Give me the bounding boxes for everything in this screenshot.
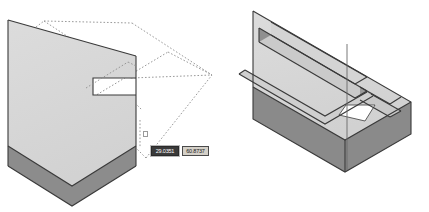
screenshot-stage: 29.0351 60.8737 [0,0,429,212]
right-viewport-panel[interactable]: 12 Command: [215,0,429,212]
coordinate-x-input[interactable]: 29.0351 [151,146,179,156]
left-model-graphics [0,0,215,212]
right-model-graphics [215,0,429,212]
coordinate-y-input[interactable]: 60.8737 [182,146,209,156]
pick-box-cursor-icon [143,131,148,137]
left-viewport-panel[interactable]: 29.0351 60.8737 [0,0,215,212]
